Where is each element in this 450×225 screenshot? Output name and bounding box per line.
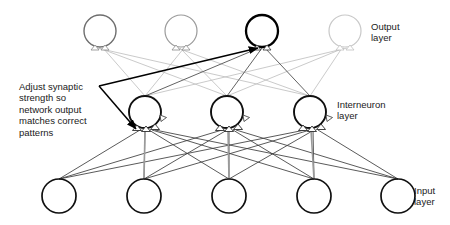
edges-interneuron-to-output xyxy=(97,48,347,96)
neural-network-diagram: Adjust synaptic strength so network outp… xyxy=(0,0,450,225)
interneuron-node xyxy=(211,96,243,128)
interneuron-node xyxy=(294,96,326,128)
input-node xyxy=(42,179,76,213)
annotation-label: Adjust synaptic strength so network outp… xyxy=(19,81,87,138)
interneuron-node xyxy=(129,96,161,128)
layer-interneuron xyxy=(129,96,326,128)
output-node-highlighted xyxy=(246,15,278,47)
synaptic-terminals-interneuron xyxy=(133,124,326,132)
synaptic-terminals-output xyxy=(91,45,354,50)
output-node xyxy=(165,15,197,47)
interneuron-layer-label: Interneuron layer xyxy=(337,100,386,121)
input-layer-label: Input layer xyxy=(414,186,435,207)
output-layer-label: Output layer xyxy=(371,22,400,43)
input-node xyxy=(127,179,161,213)
input-node xyxy=(297,179,331,213)
output-node xyxy=(84,15,116,47)
output-node xyxy=(329,15,361,47)
annotation-arrows xyxy=(99,48,258,129)
synaptic-terminals-interneuron-side xyxy=(160,115,333,122)
input-node xyxy=(212,179,246,213)
layer-output xyxy=(84,15,361,47)
input-node xyxy=(381,179,415,213)
layer-input xyxy=(42,179,415,213)
